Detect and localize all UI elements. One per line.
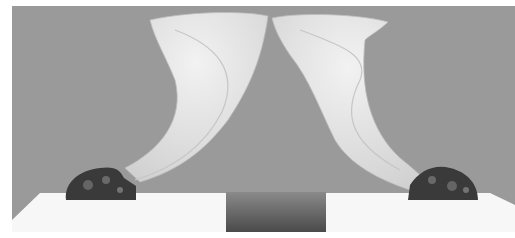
left-horn (125, 13, 268, 182)
right-mount (408, 167, 478, 200)
photo-frame (0, 0, 515, 238)
center-gap (226, 192, 326, 232)
photo-scene (0, 0, 515, 238)
right-horn (272, 15, 425, 190)
left-mount (66, 167, 136, 200)
